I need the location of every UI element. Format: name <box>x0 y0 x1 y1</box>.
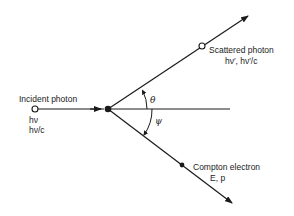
scattered-photon-quantities: hν′, hν′/c <box>225 56 258 66</box>
theta-arc <box>143 91 148 110</box>
incident-energy-label: hν <box>29 115 38 125</box>
collision-point <box>105 106 112 113</box>
compton-scattering-diagram: Incident photon hν hν/c Scattered photon… <box>0 0 294 216</box>
incident-photon-marker <box>32 106 38 112</box>
scattered-photon-marker <box>199 43 205 49</box>
compton-electron-label: Compton electron <box>193 162 260 172</box>
compton-electron-quantities: E, p <box>210 173 225 183</box>
psi-arc <box>144 109 152 135</box>
incident-photon-label: Incident photon <box>19 94 77 104</box>
incident-momentum-label: hν/c <box>29 125 45 135</box>
psi-label: ψ <box>155 116 163 126</box>
compton-electron-marker <box>180 163 185 168</box>
scattered-photon-label: Scattered photon <box>209 45 274 55</box>
theta-label: θ <box>150 95 156 105</box>
compton-electron-path <box>108 109 232 203</box>
